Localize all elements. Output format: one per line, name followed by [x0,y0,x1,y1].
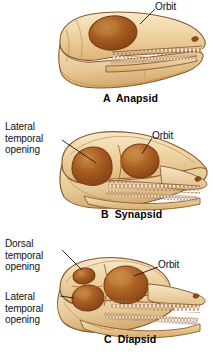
caption-diapsid: C Diapsid [104,333,156,345]
label-lateral-temporal-opening-c: Lateral temporal opening [5,291,43,326]
skull-figure: Orbit A Anapsid Lateral temporal opening… [0,0,213,355]
skull-anapsid [59,12,206,88]
caption-anapsid: A Anapsid [103,92,158,104]
orbit-opening-b [121,144,159,178]
label-dorsal-temporal-opening-c: Dorsal temporal opening [5,238,43,273]
label-orbit-c: Orbit [158,259,179,271]
skull-synapsid [60,132,207,210]
label-orbit-b: Orbit [152,130,173,142]
label-lateral-temporal-opening-b: Lateral temporal opening [5,121,43,156]
lateral-temporal-opening-b [72,147,112,185]
skull-diapsid [58,258,205,338]
caption-synapsid: B Synapsid [101,208,162,220]
label-orbit-a: Orbit [155,1,176,13]
